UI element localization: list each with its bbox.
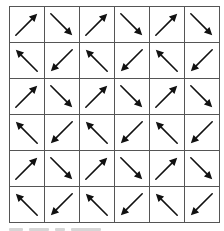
arrow-down-right-icon (45, 7, 79, 42)
arrow-up-left-icon (10, 115, 44, 150)
grid-cell (150, 7, 185, 43)
grid-cell (115, 115, 150, 151)
grid-cell (45, 187, 80, 223)
grid-cell (80, 79, 115, 115)
arrow-down-left-icon (115, 115, 149, 150)
arrow-up-left-icon (80, 115, 114, 150)
arrow-down-left-icon (185, 187, 219, 222)
grid-cell (150, 79, 185, 115)
arrow-up-right-icon (80, 7, 114, 42)
arrow-up-right-icon (10, 151, 44, 186)
arrow-up-right-icon (10, 79, 44, 114)
arrow-down-left-icon (45, 187, 79, 222)
caption-text-fragment (29, 228, 49, 231)
grid-cell (45, 79, 80, 115)
caption-text-fragment (71, 228, 101, 231)
grid-cell (185, 43, 220, 79)
arrow-up-left-icon (150, 115, 184, 150)
grid-cell (45, 115, 80, 151)
arrow-down-left-icon (45, 43, 79, 78)
arrow-up-right-icon (150, 151, 184, 186)
grid-cell (185, 151, 220, 187)
clipped-caption (9, 226, 101, 231)
arrow-up-right-icon (150, 7, 184, 42)
grid-cell (150, 187, 185, 223)
grid-cell (45, 43, 80, 79)
arrow-up-right-icon (80, 79, 114, 114)
grid-cell (10, 43, 45, 79)
grid-cell (185, 115, 220, 151)
arrow-up-left-icon (80, 187, 114, 222)
grid-cell (115, 187, 150, 223)
caption-text-fragment (55, 228, 65, 231)
grid-cell (10, 115, 45, 151)
grid-cell (115, 79, 150, 115)
grid-cell (115, 151, 150, 187)
arrow-up-left-icon (10, 43, 44, 78)
grid-cell (150, 43, 185, 79)
caption-text-fragment (9, 228, 23, 231)
grid-cell (45, 7, 80, 43)
grid-cell (80, 187, 115, 223)
arrow-down-right-icon (185, 151, 219, 186)
grid-cell (10, 187, 45, 223)
grid-cell (185, 7, 220, 43)
arrow-down-left-icon (45, 115, 79, 150)
grid-cell (45, 151, 80, 187)
grid-cell (80, 115, 115, 151)
arrow-down-right-icon (115, 79, 149, 114)
arrow-down-left-icon (115, 187, 149, 222)
arrow-up-right-icon (10, 7, 44, 42)
arrow-down-left-icon (115, 43, 149, 78)
grid-cell (150, 115, 185, 151)
grid-cell (10, 79, 45, 115)
arrow-down-right-icon (45, 79, 79, 114)
grid-cell (80, 43, 115, 79)
grid-cell (185, 79, 220, 115)
grid-cell (185, 187, 220, 223)
arrow-down-right-icon (115, 151, 149, 186)
grid-cell (115, 43, 150, 79)
arrow-down-right-icon (115, 7, 149, 42)
arrow-down-left-icon (185, 115, 219, 150)
grid-cell (10, 7, 45, 43)
arrow-down-right-icon (45, 151, 79, 186)
arrow-up-left-icon (10, 187, 44, 222)
arrow-up-right-icon (150, 79, 184, 114)
arrow-grid (9, 6, 220, 223)
arrow-down-left-icon (185, 43, 219, 78)
arrow-down-right-icon (185, 7, 219, 42)
grid-cell (150, 151, 185, 187)
grid-cell (115, 7, 150, 43)
arrow-up-left-icon (150, 187, 184, 222)
grid-cell (80, 151, 115, 187)
grid-cell (80, 7, 115, 43)
arrow-up-left-icon (80, 43, 114, 78)
arrow-down-right-icon (185, 79, 219, 114)
arrow-up-left-icon (150, 43, 184, 78)
arrow-up-right-icon (80, 151, 114, 186)
grid-cell (10, 151, 45, 187)
